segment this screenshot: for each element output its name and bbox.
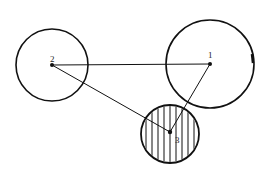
node-label-1: 1 xyxy=(208,50,213,60)
node-dot-3 xyxy=(168,130,172,134)
edge-2-3 xyxy=(52,65,170,132)
edge-2-1 xyxy=(52,64,210,65)
edge-1-3 xyxy=(170,64,210,132)
node-dot-1 xyxy=(208,62,212,66)
node-label-2: 2 xyxy=(50,54,55,64)
node-label-3: 3 xyxy=(175,135,180,145)
diagram-canvas: 2 1 3 xyxy=(0,0,262,176)
node-circle-1-mark xyxy=(252,54,253,63)
